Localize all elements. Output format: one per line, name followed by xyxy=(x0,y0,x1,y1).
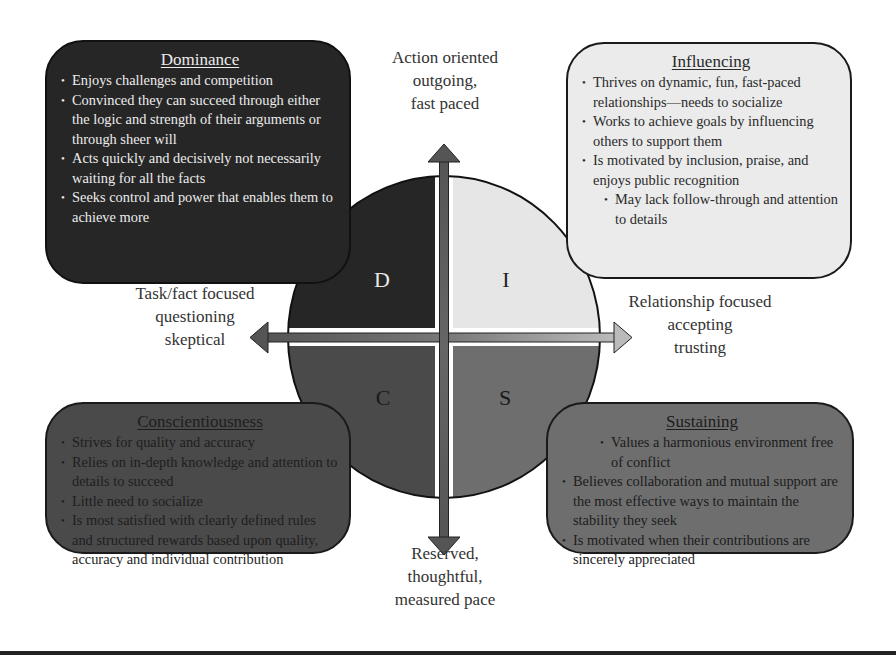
bottom-rule xyxy=(0,651,896,655)
trait-item: Works to achieve goals by influencing ot… xyxy=(582,112,840,151)
axis-label-line: measured pace xyxy=(360,588,530,611)
trait-item: Acts quickly and decisively not necessar… xyxy=(61,149,339,188)
trait-item: Is most satisfied with clearly defined r… xyxy=(61,511,339,570)
conscientiousness-box: Conscientiousness Strives for quality an… xyxy=(45,402,351,554)
trait-item: Values a harmonious environment free of … xyxy=(600,433,842,472)
axis-label-left: Task/fact focused questioning skeptical xyxy=(100,282,290,351)
axis-label-bottom: Reserved, thoughtful, measured pace xyxy=(360,542,530,611)
axis-label-line: trusting xyxy=(600,336,800,359)
sustaining-box: Sustaining Values a harmonious environme… xyxy=(546,402,854,554)
axis-label-line: skeptical xyxy=(100,328,290,351)
trait-list: Enjoys challenges and competition Convin… xyxy=(61,71,339,227)
quadrant-letter-i: I xyxy=(502,267,509,292)
dominance-box: Dominance Enjoys challenges and competit… xyxy=(45,40,351,284)
axis-label-top: Action oriented outgoing, fast paced xyxy=(360,46,530,115)
quadrant-letter-c: C xyxy=(376,385,391,410)
box-title: Influencing xyxy=(582,52,840,72)
quadrant-letter-s: S xyxy=(499,385,511,410)
axis-label-right: Relationship focused accepting trusting xyxy=(600,290,800,359)
axis-label-line: questioning xyxy=(100,305,290,328)
axis-label-line: Action oriented xyxy=(360,46,530,69)
box-title: Sustaining xyxy=(562,412,842,432)
trait-item: Strives for quality and accuracy xyxy=(61,433,339,453)
axis-label-line: Relationship focused xyxy=(600,290,800,313)
trait-item: May lack follow-through and attention to… xyxy=(604,190,840,229)
trait-item: Thrives on dynamic, fun, fast-paced rela… xyxy=(582,73,840,112)
axis-label-line: outgoing, xyxy=(360,69,530,92)
trait-item: Seeks control and power that enables the… xyxy=(61,188,339,227)
trait-item: Convinced they can succeed through eithe… xyxy=(61,91,339,150)
trait-item: Relies on in-depth knowledge and attenti… xyxy=(61,453,339,492)
quadrant-letter-d: D xyxy=(374,267,390,292)
axis-label-line: Reserved, xyxy=(360,542,530,565)
box-title: Conscientiousness xyxy=(61,412,339,432)
trait-item: Little need to socialize xyxy=(61,492,339,512)
trait-item: Is motivated by inclusion, praise, and e… xyxy=(582,151,840,190)
trait-list: Thrives on dynamic, fun, fast-paced rela… xyxy=(582,73,840,229)
trait-item: Enjoys challenges and competition xyxy=(61,71,339,91)
trait-item: Believes collaboration and mutual suppor… xyxy=(562,472,842,531)
box-title: Dominance xyxy=(61,50,339,70)
trait-list: Strives for quality and accuracy Relies … xyxy=(61,433,339,570)
trait-item: Is motivated when their contributions ar… xyxy=(562,531,842,570)
axis-label-line: accepting xyxy=(600,313,800,336)
influencing-box: Influencing Thrives on dynamic, fun, fas… xyxy=(566,42,852,279)
axis-label-line: thoughtful, xyxy=(360,565,530,588)
trait-list: Values a harmonious environment free of … xyxy=(562,433,842,570)
axis-label-line: fast paced xyxy=(360,92,530,115)
axis-label-line: Task/fact focused xyxy=(100,282,290,305)
